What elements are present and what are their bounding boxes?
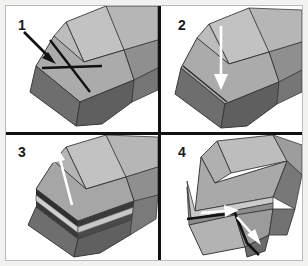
panel-4-number: 4 xyxy=(178,145,186,159)
panel-3-number: 3 xyxy=(18,145,26,159)
panel-2-number: 2 xyxy=(178,18,186,32)
panel-4: 4 xyxy=(161,135,302,260)
panel-3-illustration xyxy=(6,135,158,260)
divider-horizontal xyxy=(6,132,302,135)
figure-root: 1 2 xyxy=(0,0,308,266)
shape-side-lower xyxy=(269,209,295,235)
panel-2: 2 xyxy=(161,6,302,132)
panel-1: 1 xyxy=(6,6,158,132)
figure-frame: 1 2 xyxy=(5,5,303,261)
panel-3: 3 xyxy=(6,135,158,260)
panel-1-number: 1 xyxy=(18,18,26,32)
shape-side-far xyxy=(130,195,158,235)
panel-1-illustration xyxy=(6,6,158,132)
